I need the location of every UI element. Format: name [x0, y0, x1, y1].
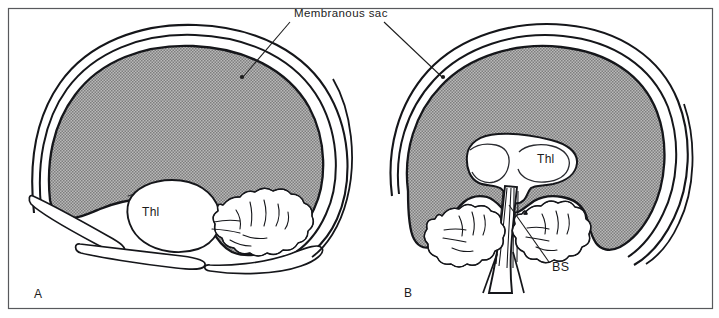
panel-letter-b: B	[404, 286, 412, 300]
panel-a: Thl	[29, 25, 352, 301]
figure-root: Thl	[0, 0, 719, 318]
label-bs-b: BS	[552, 260, 570, 274]
panel-b: Thl	[391, 24, 693, 300]
leader-line-membranous-sac-right	[384, 22, 442, 77]
leader-dot-membranous-sac-left	[240, 75, 244, 79]
label-thl-b: Thl	[537, 152, 555, 166]
cerebellar-hemisphere-right-b	[512, 201, 591, 263]
label-thl-a: Thl	[142, 205, 160, 219]
brainstem-lower-limb-right-b	[513, 252, 524, 293]
anatomy-figure-svg: Thl	[0, 0, 719, 318]
leader-dot-membranous-sac-right	[441, 75, 445, 79]
panel-letter-a: A	[34, 287, 42, 301]
label-membranous-sac: Membranous sac	[294, 7, 388, 19]
